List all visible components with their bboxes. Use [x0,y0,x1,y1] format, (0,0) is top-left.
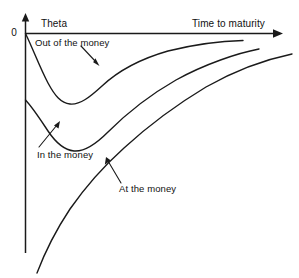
theta-time-to-maturity-diagram: 0 Theta Time to maturity Out of the mone… [0,0,299,278]
y-axis-label: Theta [41,18,67,29]
origin-label: 0 [11,27,17,38]
leader-line-in-the-money [39,125,57,147]
x-axis-label: Time to maturity [192,18,265,29]
axes-group [22,13,283,253]
annotation-label-in-the-money: In the money [37,149,93,160]
leader-lines-group [39,46,121,183]
leader-line-out-of-the-money [81,46,96,62]
diagram-canvas: 0 Theta Time to maturity Out of the mone… [0,0,299,278]
x-axis-arrow-icon [273,29,283,38]
annotation-label-out-of-the-money: Out of the money [35,37,110,48]
leader-line-at-the-money [108,161,121,183]
annotation-label-at-the-money: At the money [119,183,176,194]
y-axis-arrow-icon [22,13,29,22]
